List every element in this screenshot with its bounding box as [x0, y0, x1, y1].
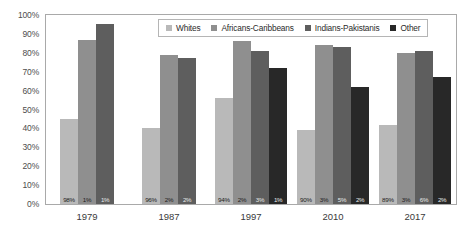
x-axis: 19791987199720102017 [46, 207, 456, 231]
bar-value-label: 5% [333, 196, 351, 203]
bar[interactable]: 3% [315, 45, 333, 204]
bar-column[interactable]: 2% [178, 15, 196, 204]
bar-value-label: 6% [415, 196, 433, 203]
bar-column[interactable]: 89% [379, 15, 397, 204]
bar[interactable]: 94% [215, 98, 233, 204]
y-axis-tick-label: 20% [23, 161, 39, 171]
bar-column[interactable]: 6% [415, 15, 433, 204]
legend-item[interactable]: Whites [166, 23, 200, 33]
bars-layer: 98%1%1%96%2%2%94%2%3%1%90%3%5%2%89%3%6%2… [46, 15, 456, 204]
bar-chart: 0%10%20%30%40%50%60%70%80%90%100% 98%1%1… [0, 0, 469, 239]
legend-label: Africans-Caribbeans [221, 23, 293, 33]
y-axis-tick-label: 0% [27, 199, 39, 209]
y-axis-tick-label: 90% [23, 29, 39, 39]
bar-value-label: 96% [142, 196, 160, 203]
bar[interactable]: 96% [142, 128, 160, 204]
bar-value-label: 90% [297, 196, 315, 203]
x-axis-tick-label: 1979 [76, 211, 97, 222]
bar[interactable]: 1% [96, 24, 114, 204]
y-axis-tick-label: 100% [18, 10, 39, 20]
legend-swatch-icon [390, 25, 396, 31]
legend-swatch-icon [211, 25, 217, 31]
bar[interactable]: 3% [251, 51, 269, 204]
bar-value-label: 2% [351, 196, 369, 203]
bar[interactable]: 98% [60, 119, 78, 204]
y-axis-tick-label: 40% [23, 123, 39, 133]
legend-swatch-icon [305, 25, 311, 31]
bar-value-label: 3% [251, 196, 269, 203]
bar-group: 89%3%6%2% [379, 15, 451, 204]
y-axis-tick-label: 80% [23, 48, 39, 58]
bar-column[interactable]: 5% [333, 15, 351, 204]
legend-label: Other [400, 23, 420, 33]
legend-item[interactable]: Other [390, 23, 420, 33]
bar-column[interactable]: 96% [142, 15, 160, 204]
bar-column[interactable]: 3% [315, 15, 333, 204]
bar-column[interactable]: 2% [433, 15, 451, 204]
x-axis-tick-label: 2010 [322, 211, 343, 222]
bar-value-label: 2% [433, 196, 451, 203]
bar-value-label: 2% [160, 196, 178, 203]
legend-swatch-icon [166, 25, 172, 31]
bar-value-label: 3% [315, 196, 333, 203]
bar[interactable]: 1% [269, 68, 287, 204]
bar-value-label: 1% [269, 196, 287, 203]
bar-column[interactable]: 1% [269, 15, 287, 204]
bar-value-label: 2% [233, 196, 251, 203]
bar-column[interactable]: 1% [96, 15, 114, 204]
legend-item[interactable]: Africans-Caribbeans [211, 23, 293, 33]
bar[interactable]: 2% [351, 87, 369, 204]
bar-value-label: 98% [60, 196, 78, 203]
bar-value-label: 1% [78, 196, 96, 203]
y-axis-tick-label: 50% [23, 105, 39, 115]
bar-column[interactable]: 1% [78, 15, 96, 204]
y-axis-tick-label: 70% [23, 67, 39, 77]
bar-column[interactable]: 2% [351, 15, 369, 204]
bar[interactable]: 6% [415, 51, 433, 204]
bar[interactable]: 1% [78, 40, 96, 204]
y-axis-tick-label: 60% [23, 86, 39, 96]
bar-group: 90%3%5%2% [297, 15, 369, 204]
bar-column[interactable]: 3% [251, 15, 269, 204]
bar[interactable]: 3% [397, 53, 415, 204]
bar[interactable]: 5% [333, 47, 351, 204]
x-axis-tick-label: 1997 [240, 211, 261, 222]
bar-column[interactable]: 3% [397, 15, 415, 204]
legend-label: Whites [176, 23, 200, 33]
bar[interactable]: 90% [297, 130, 315, 204]
bar-column[interactable]: 94% [215, 15, 233, 204]
bar-value-label: 94% [215, 196, 233, 203]
y-axis: 0%10%20%30%40%50%60%70%80%90%100% [0, 14, 43, 205]
bar[interactable]: 2% [178, 58, 196, 204]
bar[interactable]: 2% [160, 55, 178, 204]
legend-label: Indians-Pakistanis [315, 23, 380, 33]
bar-column[interactable]: 90% [297, 15, 315, 204]
bar[interactable]: 2% [433, 77, 451, 204]
chart-legend: WhitesAfricans-CaribbeansIndians-Pakista… [158, 19, 428, 37]
bar[interactable]: 89% [379, 125, 397, 204]
bar-group: 94%2%3%1% [215, 15, 287, 204]
x-axis-tick-label: 1987 [158, 211, 179, 222]
bar-value-label: 3% [397, 196, 415, 203]
bar-group: 98%1%1% [60, 15, 114, 204]
bar-column[interactable]: 2% [160, 15, 178, 204]
legend-item[interactable]: Indians-Pakistanis [305, 23, 380, 33]
bar-column[interactable]: 98% [60, 15, 78, 204]
bar-group: 96%2%2% [142, 15, 196, 204]
x-axis-tick-label: 2017 [404, 211, 425, 222]
y-axis-tick-label: 30% [23, 142, 39, 152]
y-axis-tick-label: 10% [23, 180, 39, 190]
bar-column[interactable]: 2% [233, 15, 251, 204]
bar-value-label: 1% [96, 196, 114, 203]
bar[interactable]: 2% [233, 41, 251, 204]
bar-value-label: 89% [379, 196, 397, 203]
bar-value-label: 2% [178, 196, 196, 203]
